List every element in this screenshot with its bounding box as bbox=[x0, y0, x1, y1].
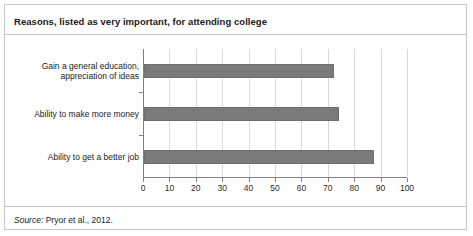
y-axis-tick bbox=[139, 135, 143, 136]
bar bbox=[144, 64, 334, 78]
source-label: Source: bbox=[14, 215, 43, 225]
x-axis-tick-label: 40 bbox=[244, 183, 253, 193]
x-axis-tick bbox=[249, 178, 250, 182]
x-axis-tick-label: 50 bbox=[270, 183, 279, 193]
x-axis-tick-label: 70 bbox=[323, 183, 332, 193]
title-divider bbox=[5, 34, 466, 35]
footer-divider bbox=[5, 206, 466, 207]
x-axis-tick bbox=[222, 178, 223, 182]
x-axis-tick bbox=[381, 178, 382, 182]
x-axis-tick bbox=[407, 178, 408, 182]
x-axis-tick bbox=[196, 178, 197, 182]
plot-area: 0102030405060708090100 bbox=[143, 49, 407, 178]
x-axis-tick-label: 80 bbox=[349, 183, 358, 193]
x-axis-tick-label: 20 bbox=[191, 183, 200, 193]
x-axis-tick-label: 90 bbox=[376, 183, 385, 193]
x-gridline bbox=[381, 49, 382, 177]
x-axis-tick bbox=[169, 178, 170, 182]
figure-panel: Reasons, listed as very important, for a… bbox=[4, 4, 467, 230]
x-axis-tick bbox=[275, 178, 276, 182]
x-axis-tick bbox=[143, 178, 144, 182]
source-text: Pryor et al., 2012. bbox=[43, 215, 112, 225]
x-gridline bbox=[407, 49, 408, 177]
x-axis-tick-label: 0 bbox=[141, 183, 146, 193]
bar bbox=[144, 107, 339, 121]
x-axis-tick bbox=[354, 178, 355, 182]
bar bbox=[144, 150, 374, 164]
x-axis-tick bbox=[328, 178, 329, 182]
category-label: Ability to get a better job bbox=[11, 152, 139, 162]
x-axis-tick-label: 60 bbox=[297, 183, 306, 193]
x-axis-tick-label: 30 bbox=[217, 183, 226, 193]
category-axis-labels: Gain a general education, appreciation o… bbox=[9, 49, 139, 178]
page-title: Reasons, listed as very important, for a… bbox=[14, 16, 267, 27]
x-axis-tick bbox=[301, 178, 302, 182]
x-axis-tick-label: 10 bbox=[165, 183, 174, 193]
y-axis-tick bbox=[139, 92, 143, 93]
x-axis-tick-label: 100 bbox=[400, 183, 414, 193]
category-label: Gain a general education, appreciation o… bbox=[11, 61, 139, 81]
source-note: Source: Pryor et al., 2012. bbox=[14, 215, 113, 225]
category-label: Ability to make more money bbox=[11, 109, 139, 119]
